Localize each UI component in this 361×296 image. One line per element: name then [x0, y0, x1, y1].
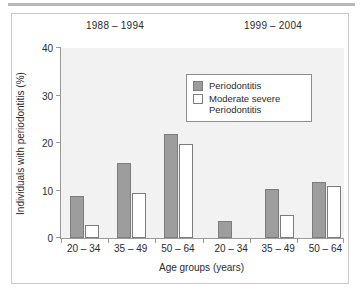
- y-axis-tick-label: 20: [42, 138, 53, 149]
- y-axis-tick: [56, 95, 61, 96]
- x-axis-tick: [203, 238, 204, 243]
- x-axis-category-label: 20 – 34: [208, 243, 255, 254]
- bar-moderate-severe: [132, 193, 146, 238]
- x-axis-category-label: 20 – 34: [60, 243, 107, 254]
- panel-title-period-2: 1999 – 2004: [218, 20, 328, 31]
- bar-moderate-severe: [280, 215, 294, 238]
- y-axis-title-text: Individuals with periodontitis (%): [15, 72, 26, 215]
- y-axis-tick: [56, 190, 61, 191]
- legend-swatch-icon-moderate-severe: [193, 94, 203, 104]
- bar-moderate-severe: [327, 186, 341, 238]
- x-axis-category-label: 50 – 64: [302, 243, 349, 254]
- legend-label-moderate-severe: Moderate severe Periodontitis: [209, 93, 305, 115]
- bar-periodontitis: [70, 196, 84, 238]
- y-axis-tick-label: 10: [42, 185, 53, 196]
- y-axis-title: Individuals with periodontitis (%): [13, 48, 27, 238]
- chart-figure: 1988 – 1994 1999 – 2004 Individuals with…: [0, 0, 361, 296]
- bar-moderate-severe: [179, 144, 193, 238]
- chart-legend: Periodontitis Moderate severe Periodonti…: [186, 74, 312, 122]
- bar-periodontitis: [312, 182, 326, 238]
- bar-periodontitis: [218, 221, 232, 238]
- y-axis-tick-label: 0: [47, 233, 53, 244]
- legend-swatch-icon-periodontitis: [193, 81, 203, 91]
- panel-title-period-1: 1988 – 1994: [60, 20, 170, 31]
- x-axis-category-label: 35 – 49: [255, 243, 302, 254]
- top-rule-divider: [8, 3, 355, 6]
- legend-item-periodontitis: Periodontitis: [193, 80, 305, 91]
- bar-moderate-severe: [85, 225, 99, 238]
- legend-item-moderate-severe-periodontitis: Moderate severe Periodontitis: [193, 93, 305, 115]
- y-axis-tick: [56, 47, 61, 48]
- bar-periodontitis: [117, 163, 131, 238]
- y-axis-tick: [56, 142, 61, 143]
- y-axis-tick-label: 40: [42, 43, 53, 54]
- y-axis-tick-label: 30: [42, 90, 53, 101]
- bar-periodontitis: [164, 134, 178, 238]
- x-axis-title: Age groups (years): [60, 262, 343, 273]
- legend-label-periodontitis: Periodontitis: [209, 80, 261, 91]
- x-axis-category-label: 35 – 49: [107, 243, 154, 254]
- x-axis-category-label: 50 – 64: [154, 243, 201, 254]
- bar-periodontitis: [265, 189, 279, 238]
